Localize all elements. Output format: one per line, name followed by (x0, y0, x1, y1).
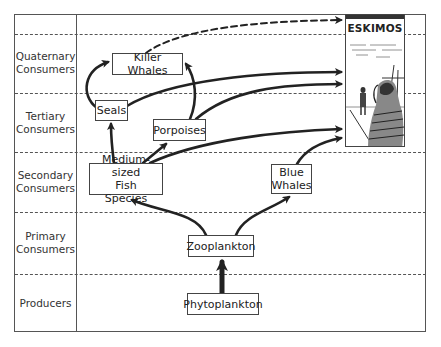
arrow-zooplankton-to-fish (132, 200, 206, 235)
node-killer-whales: Killer Whales (112, 53, 183, 75)
node-porpoises: Porpoises (153, 119, 206, 141)
food-web-diagram: Quaternary Consumers Tertiary Consumers … (0, 0, 441, 347)
arrow-blue-whales-to-eskimos (297, 138, 341, 164)
node-label: Blue (279, 166, 303, 179)
node-label: Seals (97, 104, 126, 117)
node-medium-sized-fish-species: Medium-sized Fish Species (89, 163, 163, 195)
node-label: Killer Whales (116, 51, 179, 77)
node-label: Whales (271, 179, 311, 192)
node-label-eskimos: ESKIMOS (346, 22, 404, 34)
arrow-zooplankton-to-blue-whales (236, 197, 289, 235)
arrow-porpoises-to-killer-whales (186, 64, 195, 119)
node-phytoplankton: Phytoplankton (187, 293, 259, 315)
node-zooplankton: Zooplankton (188, 235, 254, 257)
node-eskimos: ESKIMOS (345, 14, 405, 147)
arrow-porpoises-to-eskimos (196, 84, 341, 119)
node-label: Zooplankton (186, 240, 255, 253)
eskimo-hunters-illustration (346, 15, 405, 147)
node-label: Phytoplankton (183, 298, 262, 311)
node-seals: Seals (95, 100, 128, 121)
node-label: Porpoises (153, 124, 206, 137)
node-blue-whales: Blue Whales (271, 164, 312, 194)
node-label: Fish Species (93, 179, 159, 205)
arrow-killer-whales-to-eskimos (146, 20, 341, 53)
arrow-seals-to-eskimos (127, 72, 341, 106)
node-label: Medium-sized (93, 153, 159, 179)
